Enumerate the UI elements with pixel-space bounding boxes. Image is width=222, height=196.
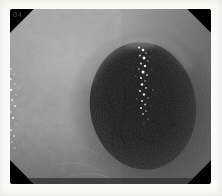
endoscopy-image: 04 [0,0,222,196]
page-background: 04 [0,0,222,196]
endoscopy-photo: 04 [0,0,222,196]
corner-label: 04 [13,11,22,19]
mesh-texture [10,9,211,184]
endoscopy-frame-content [4,9,222,191]
bottom-edge-band [10,178,211,184]
